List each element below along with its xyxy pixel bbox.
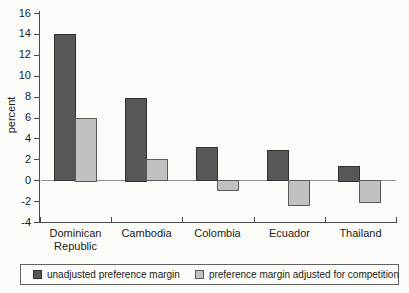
y-tick xyxy=(34,118,39,119)
y-tick-label: 4 xyxy=(0,132,31,144)
legend: unadjusted preference margin preference … xyxy=(20,264,399,285)
y-tick xyxy=(34,159,39,160)
y-tick-label: 6 xyxy=(0,111,31,123)
y-tick xyxy=(34,76,39,77)
legend-label-adjusted: preference margin adjusted for competiti… xyxy=(209,269,399,280)
y-tick xyxy=(34,13,39,14)
y-tick-label: 16 xyxy=(0,7,31,19)
bar-unadjusted xyxy=(54,34,76,181)
y-tick-label: 8 xyxy=(0,90,31,102)
y-tick xyxy=(34,55,39,56)
category-label: Ecuador xyxy=(254,227,325,240)
x-axis xyxy=(39,222,397,223)
y-tick xyxy=(34,180,39,181)
x-tick xyxy=(254,217,255,222)
y-tick-label: -2 xyxy=(0,195,31,207)
y-tick-label: -4 xyxy=(0,216,31,228)
bar-adjusted xyxy=(288,180,310,206)
y-tick-label: 0 xyxy=(0,174,31,186)
bar-unadjusted xyxy=(267,150,289,181)
y-tick-label: 14 xyxy=(0,27,31,39)
y-tick xyxy=(34,138,39,139)
y-tick xyxy=(34,222,39,223)
bar-adjusted xyxy=(217,180,239,191)
y-tick xyxy=(34,97,39,98)
legend-label-unadjusted: unadjusted preference margin xyxy=(47,269,180,280)
category-label: Dominican Republic xyxy=(40,227,111,252)
bar-chart-figure: percent 1614121086420-2-4Dominican Repub… xyxy=(0,0,409,293)
category-label: Colombia xyxy=(182,227,253,240)
bar-unadjusted xyxy=(196,147,218,181)
category-label: Cambodia xyxy=(111,227,182,240)
bar-unadjusted xyxy=(125,98,147,182)
bar-adjusted xyxy=(146,159,168,181)
y-tick xyxy=(34,34,39,35)
x-tick xyxy=(182,217,183,222)
legend-swatch-adjusted xyxy=(195,270,204,279)
plot-area: 1614121086420-2-4Dominican RepublicCambo… xyxy=(0,0,409,293)
y-tick-label: 10 xyxy=(0,69,31,81)
x-tick xyxy=(325,217,326,222)
bar-unadjusted xyxy=(338,166,360,182)
y-tick-label: 12 xyxy=(0,48,31,60)
category-label: Thailand xyxy=(325,227,396,240)
bar-adjusted xyxy=(75,118,97,182)
x-tick xyxy=(40,217,41,222)
y-tick xyxy=(34,201,39,202)
y-axis xyxy=(39,11,40,223)
bar-adjusted xyxy=(359,180,381,203)
x-tick xyxy=(396,217,397,222)
legend-swatch-unadjusted xyxy=(33,270,42,279)
y-tick-label: 2 xyxy=(0,153,31,165)
x-tick xyxy=(111,217,112,222)
